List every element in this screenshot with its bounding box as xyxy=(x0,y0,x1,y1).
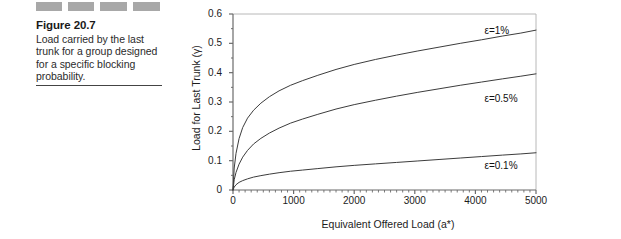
figure-page: Figure 20.7 Load carried by the last tru… xyxy=(0,0,621,239)
redaction-block xyxy=(100,2,127,11)
figure-title: Figure 20.7 xyxy=(36,19,164,32)
line-chart: Load for Last Trunk (γ) Equivalent Offer… xyxy=(175,0,621,239)
redaction-block xyxy=(133,2,160,11)
plot-canvas xyxy=(175,0,621,239)
figure-caption-block: Figure 20.7 Load carried by the last tru… xyxy=(36,2,164,86)
redaction-block xyxy=(36,2,62,11)
redaction-strip xyxy=(36,2,164,11)
caption-divider xyxy=(36,85,162,86)
redaction-block xyxy=(68,2,94,11)
figure-caption-text: Load carried by the last trunk for a gro… xyxy=(36,33,164,83)
